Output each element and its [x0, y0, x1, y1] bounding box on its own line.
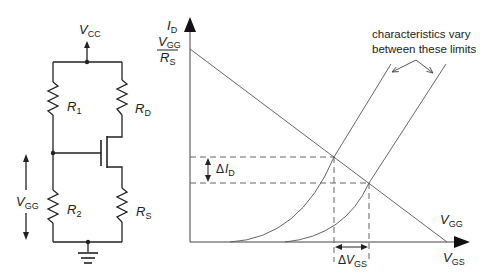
x-axis-arrow	[454, 236, 470, 248]
delta-vgs-label: ΔVGS	[338, 253, 367, 269]
r2-resistor	[48, 190, 58, 223]
vcc-arrow-head	[84, 41, 90, 48]
mosfet-drain	[107, 115, 122, 137]
rd-resistor	[117, 80, 127, 115]
intercept-x-label: VGG	[440, 212, 463, 229]
svg-text:RS: RS	[160, 50, 175, 67]
rs-resistor	[117, 188, 127, 222]
ground-icon	[78, 253, 98, 263]
delta-id-label: ΔID	[216, 162, 235, 178]
biasing-diagram: VCC R1 RD R2 RS VGG	[0, 0, 484, 280]
vcc-node	[85, 60, 89, 64]
intercept-y-label: VGG RS	[157, 34, 181, 67]
vcc-label: VCC	[79, 22, 101, 39]
load-line	[190, 49, 447, 242]
vgg-label: VGG	[16, 194, 39, 211]
characteristic-curve-low	[230, 64, 391, 242]
annotation-arrow-right	[416, 60, 433, 73]
r2-label: R2	[67, 202, 81, 219]
circuit	[23, 41, 127, 263]
annotation-line-1: characteristics vary	[372, 28, 471, 40]
svg-text:VGG: VGG	[158, 34, 181, 50]
y-axis-label: ID	[167, 18, 178, 35]
x-axis-label: VGS	[443, 250, 465, 267]
characteristic-curve-high	[285, 64, 446, 242]
rd-label: RD	[135, 101, 151, 118]
y-axis-arrow	[184, 17, 196, 32]
annotation-line-2: between these limits	[372, 43, 476, 55]
mosfet-source	[107, 167, 122, 188]
annotation-arrow-left	[392, 60, 416, 72]
r1-label: R1	[67, 99, 81, 116]
r1-resistor	[48, 82, 58, 115]
rs-label: RS	[136, 204, 151, 221]
